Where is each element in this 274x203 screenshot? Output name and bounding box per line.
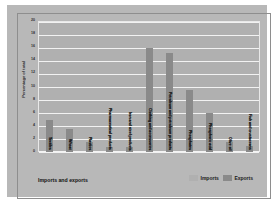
legend-label: Imports (201, 175, 219, 181)
bar-slot: Pharmaceutical products (99, 22, 119, 152)
bar-slot: Petroleum and petroleum products (159, 22, 179, 152)
y-axis-tick-label: 20 (31, 19, 35, 23)
plot-area-wrapper: TextilesWheatPlasticsPharmaceutical prod… (38, 21, 260, 152)
category-label: Phosphoric acid (207, 123, 211, 150)
y-axis-tick-label: 18 (31, 32, 35, 36)
bar-slot: Wheat (59, 22, 79, 152)
y-axis-tick-label: 8 (33, 98, 35, 102)
bar-slot: Phosphoric acid (199, 22, 219, 152)
x-axis-title: Imports and exports (38, 177, 88, 183)
bar-slot: Iron and steel products (119, 22, 139, 152)
bar-slot: Plastics (79, 22, 99, 152)
category-label: Textiles (47, 137, 51, 150)
y-axis-tick-label: 10 (31, 85, 35, 89)
bar-slot: Clothing and accessories (139, 22, 159, 152)
category-label: Olive oil (227, 137, 231, 150)
legend-swatch (223, 175, 232, 181)
y-axis-title: Percentage of total (21, 61, 26, 98)
y-axis-tick-label: 16 (31, 45, 35, 49)
bar-slot: Fish and crustaceans (239, 22, 259, 152)
category-label: Wheat (67, 139, 71, 150)
gridline (39, 152, 259, 153)
bar-slot: Phosphates (179, 22, 199, 152)
category-label: Clothing and accessories (147, 108, 151, 150)
legend-item[interactable]: Imports (189, 175, 219, 181)
category-label: Phosphates (187, 130, 191, 150)
y-axis-tick-label: 2 (33, 137, 35, 141)
chart-background: Percentage of total TextilesWheatPlastic… (7, 5, 267, 197)
category-label: Pharmaceutical products (107, 108, 111, 150)
category-label: Plastics (87, 137, 91, 150)
legend-item[interactable]: Exports (223, 175, 253, 181)
legend-label: Exports (234, 175, 253, 181)
category-label: Fish and crustaceans (247, 114, 251, 150)
plot-area: TextilesWheatPlasticsPharmaceutical prod… (38, 21, 260, 152)
category-label: Iron and steel products (127, 112, 131, 150)
bar-slot: Textiles (39, 22, 59, 152)
y-axis-tick-label: 4 (33, 124, 35, 128)
y-axis-tick-label: 12 (31, 72, 35, 76)
legend-swatch (189, 175, 198, 181)
bar-series: TextilesWheatPlasticsPharmaceutical prod… (39, 22, 259, 152)
chart-legend: ImportsExports (189, 175, 253, 181)
y-axis-tick-label: 14 (31, 59, 35, 63)
category-label: Petroleum and petroleum products (167, 92, 171, 150)
y-axis-tick-label: 0 (33, 150, 35, 154)
bar-slot: Olive oil (219, 22, 239, 152)
y-axis-tick-label: 6 (33, 111, 35, 115)
